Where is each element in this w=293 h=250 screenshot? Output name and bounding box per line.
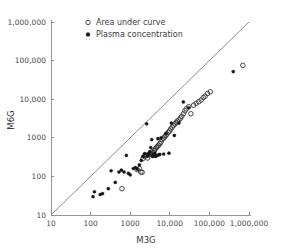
chart-legend: Area under curve Plasma concentration — [86, 18, 183, 39]
data-point — [143, 152, 146, 155]
data-point — [148, 150, 151, 153]
data-point — [187, 106, 190, 109]
identity-reference-line — [51, 22, 249, 215]
data-point — [164, 132, 167, 135]
y-tick-label: 10,000 — [20, 95, 47, 104]
data-point — [177, 122, 180, 125]
x-axis-ticks — [51, 212, 249, 215]
plot-canvas: 10100100010,000100,0001,000,000 10100100… — [0, 0, 293, 250]
data-point — [120, 186, 125, 191]
scatter-chart-figure: 10100100010,000100,0001,000,000 10100100… — [0, 0, 293, 250]
legend-label-plasma-concentration: Plasma concentration — [96, 30, 183, 39]
data-point — [91, 195, 94, 198]
legend-label-area-under-curve: Area under curve — [96, 18, 165, 27]
y-tick-label: 100 — [32, 172, 47, 181]
data-point — [162, 152, 165, 155]
data-point — [149, 146, 152, 149]
y-axis-ticks — [51, 22, 54, 215]
x-tick-label: 10,000 — [157, 219, 184, 228]
data-point — [156, 137, 159, 140]
data-point — [129, 173, 132, 176]
y-axis-title: M6G — [6, 110, 16, 130]
x-tick-label: 1000 — [121, 219, 140, 228]
x-tick-label: 1,000,000 — [230, 219, 269, 228]
data-point — [101, 192, 104, 195]
x-axis-tick-labels: 10100100010,000100,0001,000,000 — [46, 219, 268, 228]
data-point — [189, 111, 194, 116]
legend-marker-open-circle-icon — [86, 20, 90, 24]
data-point — [93, 190, 96, 193]
data-point — [232, 70, 235, 73]
data-point — [125, 154, 128, 157]
data-point — [145, 122, 148, 125]
x-tick-label: 100 — [83, 219, 98, 228]
data-point — [173, 134, 176, 137]
data-point — [241, 63, 246, 68]
series-plasma-concentration-points — [91, 70, 234, 198]
data-point — [159, 136, 162, 139]
x-axis-title: M3G — [136, 235, 156, 245]
data-point — [140, 159, 143, 162]
data-point — [136, 167, 139, 170]
y-tick-label: 1000 — [27, 133, 46, 142]
data-point — [182, 100, 185, 103]
data-point — [138, 163, 141, 166]
data-point — [122, 170, 125, 173]
x-tick-label: 100,000 — [194, 219, 225, 228]
x-tick-label: 10 — [46, 219, 56, 228]
y-tick-label: 10 — [36, 211, 46, 220]
data-point — [170, 122, 173, 125]
legend-marker-filled-circle-icon — [86, 33, 90, 37]
data-point — [114, 181, 117, 184]
series-area-under-curve-points — [120, 63, 245, 191]
data-point — [150, 138, 153, 141]
y-tick-label: 1,000,000 — [7, 18, 46, 27]
data-point — [167, 152, 170, 155]
y-tick-label: 100,000 — [15, 56, 46, 65]
data-point — [158, 153, 161, 156]
data-point — [107, 187, 110, 190]
data-point — [110, 169, 113, 172]
